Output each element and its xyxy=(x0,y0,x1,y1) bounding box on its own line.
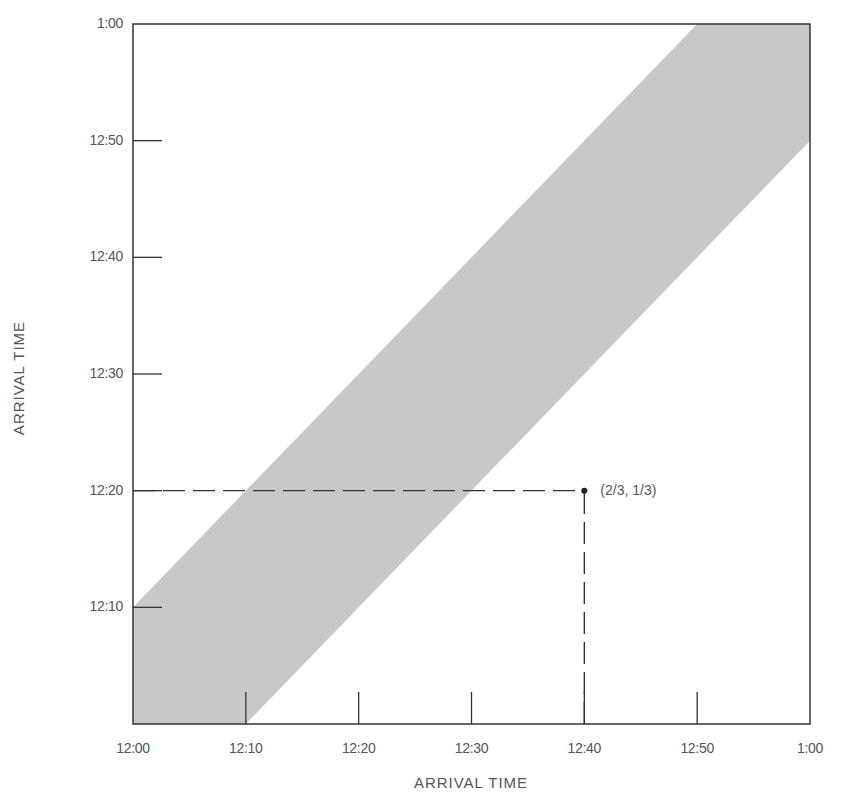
y-tick-label: 12:20 xyxy=(63,482,123,498)
y-tick-label: 12:50 xyxy=(63,132,123,148)
y-tick-label: 12:30 xyxy=(63,365,123,381)
x-tick-label: 12:00 xyxy=(103,740,163,756)
point-label: (2/3, 1/3) xyxy=(600,482,656,498)
y-tick-label: 12:40 xyxy=(63,248,123,264)
data-point xyxy=(581,488,587,494)
y-tick-label: 1:00 xyxy=(63,15,123,31)
x-tick-label: 12:20 xyxy=(329,740,389,756)
x-tick-label: 12:40 xyxy=(554,740,614,756)
chart-canvas xyxy=(0,0,843,808)
x-axis-title: ARRIVAL TIME xyxy=(414,774,528,791)
band-polygon xyxy=(133,24,810,724)
x-tick-label: 12:30 xyxy=(442,740,502,756)
x-tick-label: 1:00 xyxy=(780,740,840,756)
y-tick-label: 12:10 xyxy=(63,598,123,614)
shaded-band xyxy=(133,24,810,724)
y-axis-title: ARRIVAL TIME xyxy=(10,321,27,435)
x-tick-label: 12:10 xyxy=(216,740,276,756)
point-marker xyxy=(581,488,587,494)
x-tick-label: 12:50 xyxy=(667,740,727,756)
